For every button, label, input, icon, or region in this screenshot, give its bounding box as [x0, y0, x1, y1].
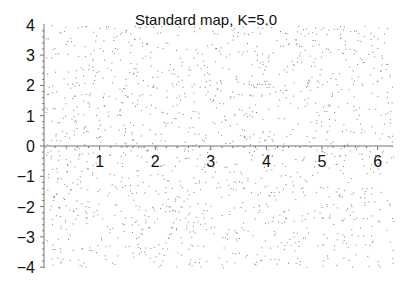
y-tick-label: 1 — [26, 108, 35, 125]
x-tick-label: 3 — [206, 153, 215, 170]
y-tick-label: −3 — [17, 229, 35, 246]
y-tick-label: −2 — [17, 199, 35, 216]
x-tick-label: 4 — [262, 153, 271, 170]
x-tick-label: 2 — [151, 153, 160, 170]
y-tick-label: 0 — [26, 138, 35, 155]
x-tick-label: 1 — [95, 153, 104, 170]
axes — [40, 24, 393, 268]
y-tick-label: 4 — [26, 17, 35, 34]
y-tick-label: −1 — [17, 168, 35, 185]
y-tick-label: 2 — [26, 77, 35, 94]
scatter-plot: −4−3−2−101234123456 — [0, 0, 412, 286]
y-tick-label: 3 — [26, 47, 35, 64]
y-tick-label: −4 — [17, 259, 35, 276]
x-tick-label: 5 — [318, 153, 327, 170]
x-tick-label: 6 — [373, 153, 382, 170]
